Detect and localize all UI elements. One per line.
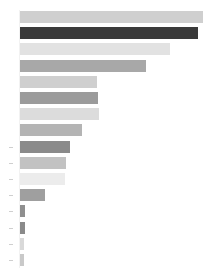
bar-10 [20, 157, 66, 169]
bar-12 [20, 189, 45, 201]
plot-area [0, 0, 203, 278]
y-axis-tick-1 [9, 147, 13, 148]
bar-5 [20, 76, 97, 88]
bar-13 [20, 205, 25, 217]
bar-1 [20, 11, 203, 23]
bar-8 [20, 124, 82, 136]
y-axis-tick-6 [9, 228, 13, 229]
bar-16 [20, 254, 24, 266]
bar-3 [20, 43, 170, 55]
y-axis-tick-4 [9, 195, 13, 196]
bar-4 [20, 60, 146, 72]
bar-9 [20, 141, 70, 153]
bar-11 [20, 173, 65, 185]
bar-2 [20, 27, 198, 39]
y-axis-tick-3 [9, 179, 13, 180]
y-axis-tick-8 [9, 260, 13, 261]
bar-15 [20, 238, 24, 250]
bar-14 [20, 222, 25, 234]
bar-7 [20, 108, 99, 120]
bar-6 [20, 92, 98, 104]
bar-chart [0, 0, 203, 278]
y-axis-tick-2 [9, 163, 13, 164]
y-axis-tick-5 [9, 211, 13, 212]
y-axis-tick-7 [9, 244, 13, 245]
